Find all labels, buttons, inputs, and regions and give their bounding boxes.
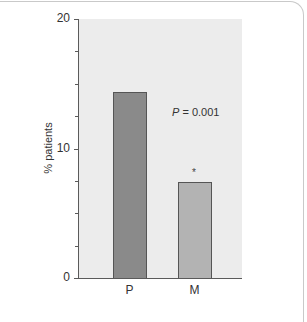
x-category-label: M xyxy=(178,283,211,297)
y-tick xyxy=(74,149,78,150)
y-minor-tick xyxy=(75,246,78,247)
y-tick xyxy=(74,278,78,279)
y-minor-tick xyxy=(75,84,78,85)
y-tick-label: 0 xyxy=(40,270,70,284)
significance-asterisk: * xyxy=(192,167,196,178)
p-value-text: = 0.001 xyxy=(179,106,219,118)
p-value-annotation: P = 0.001 xyxy=(172,106,219,118)
y-axis-label: % patients xyxy=(42,122,54,173)
y-axis xyxy=(78,19,79,279)
bar-m xyxy=(178,182,212,279)
bar-p xyxy=(113,92,147,279)
x-axis xyxy=(78,278,242,279)
y-minor-tick xyxy=(75,213,78,214)
x-category-label: P xyxy=(113,283,146,297)
y-tick xyxy=(74,19,78,20)
y-tick-label: 20 xyxy=(40,11,70,25)
y-minor-tick xyxy=(75,181,78,182)
y-minor-tick xyxy=(75,116,78,117)
plot-area xyxy=(78,19,242,278)
y-minor-tick xyxy=(75,51,78,52)
